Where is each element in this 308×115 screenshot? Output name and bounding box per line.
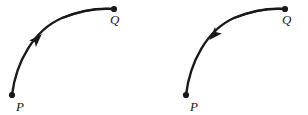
arrowhead-right xyxy=(206,27,222,43)
endpoint-dot-p-left xyxy=(9,92,15,98)
endpoint-dot-p-right xyxy=(183,92,189,98)
left-panel-group: P Q xyxy=(9,6,120,114)
arc-path-left xyxy=(12,9,114,95)
arc-path-right xyxy=(186,9,285,95)
curve-diagram: P Q P Q xyxy=(0,0,308,115)
right-panel-group: P Q xyxy=(183,6,292,114)
arc-path-left-taper xyxy=(62,9,114,18)
figure-panel: P Q P Q xyxy=(0,0,308,115)
label-p-right: P xyxy=(189,99,198,114)
label-p-left: P xyxy=(15,99,24,114)
arc-path-right-taper xyxy=(234,9,285,18)
label-q-right: Q xyxy=(282,12,292,27)
label-q-left: Q xyxy=(110,12,120,27)
